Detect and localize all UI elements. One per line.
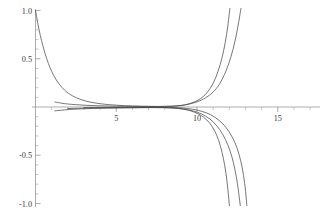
x-tick-label: 5 [114,114,118,123]
x-tick-label: 15 [274,114,282,123]
series-curve-2 [55,5,242,107]
y-tick-label: 1.0 [22,7,32,16]
y-tick-label: -1.0 [19,200,32,209]
curves-group [36,5,248,209]
y-tick-label: 0.5 [22,55,32,64]
y-tick-label: -0.5 [19,151,32,160]
series-curve-3 [55,108,230,209]
chart-svg: 510151.00.5-0.5-1.0 [0,0,326,213]
series-curve-4 [68,108,241,209]
plot-canvas: 510151.00.5-0.5-1.0 [0,0,326,213]
x-tick-label: 10 [193,114,201,123]
series-curve-5 [84,107,247,208]
series-curve-1 [36,5,231,107]
